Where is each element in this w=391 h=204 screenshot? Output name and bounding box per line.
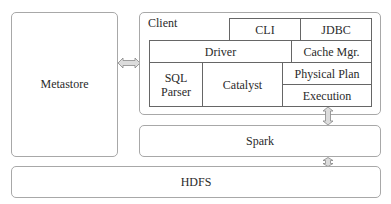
spark-label: Spark: [246, 134, 274, 149]
sql-parser-component: SQL Parser: [149, 62, 203, 107]
catalyst-component: Catalyst: [202, 62, 283, 107]
sql-parser-label: SQL Parser: [156, 71, 196, 99]
cli-label: CLI: [255, 23, 274, 37]
catalyst-label: Catalyst: [223, 78, 262, 92]
physical-plan-component: Physical Plan: [282, 62, 372, 85]
cache-mgr-label: Cache Mgr.: [304, 45, 360, 59]
execution-label: Execution: [303, 89, 352, 103]
driver-component: Driver: [149, 40, 292, 63]
bidirectional-arrow-icon: [117, 57, 141, 69]
cli-component: CLI: [229, 18, 301, 41]
metastore-box: Metastore: [11, 12, 118, 157]
jdbc-label: JDBC: [321, 23, 350, 37]
driver-label: Driver: [205, 45, 236, 59]
spark-box: Spark: [139, 125, 381, 157]
client-label: Client: [148, 16, 177, 31]
hdfs-label: HDFS: [181, 175, 212, 190]
physical-plan-label: Physical Plan: [295, 67, 360, 81]
jdbc-component: JDBC: [300, 18, 372, 41]
cache-mgr-component: Cache Mgr.: [291, 40, 372, 63]
metastore-label: Metastore: [41, 77, 89, 92]
hdfs-box: HDFS: [11, 166, 381, 198]
bidirectional-arrow-icon: [322, 106, 334, 126]
execution-component: Execution: [282, 84, 372, 107]
